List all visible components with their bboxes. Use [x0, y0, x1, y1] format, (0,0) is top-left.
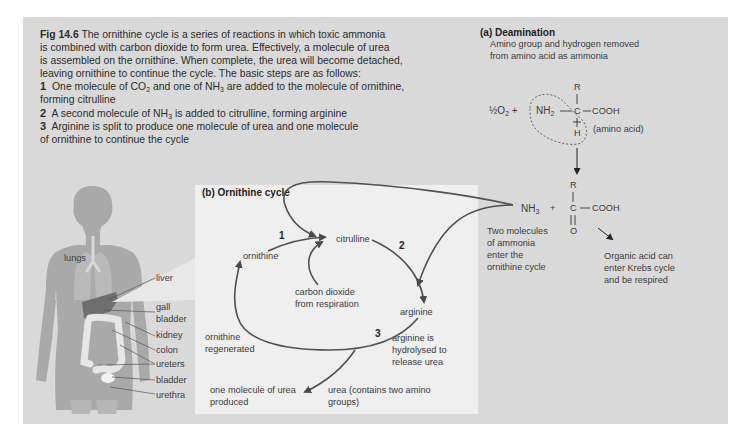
- arrow-urea-out: [305, 350, 355, 392]
- dashed-grouping: [530, 94, 587, 144]
- arrow-ammonia-1: [284, 182, 513, 236]
- arrows-layer: [0, 0, 750, 440]
- arrow-step-1: [268, 237, 325, 251]
- arrow-step-2: [372, 240, 424, 302]
- arrow-step-3: [235, 262, 418, 350]
- arrow-ammonia-2: [418, 205, 513, 285]
- arrow-organic-acid: [598, 228, 612, 239]
- arrow-co2: [309, 242, 322, 285]
